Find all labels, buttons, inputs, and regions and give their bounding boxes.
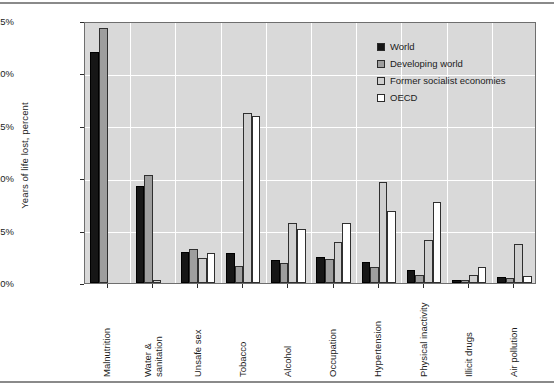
page-rule-top [0,2,554,4]
bar [461,280,470,283]
bar [235,266,244,283]
y-axis-tick-label: 15% [0,121,14,132]
x-axis-tick-label: Water & sanitation [143,285,164,377]
y-axis-tick-label: 10% [0,173,14,184]
legend-swatch-icon [377,77,385,85]
y-axis-title: Years of life lost, percent [19,46,30,266]
x-axis-tick-label: Occupation [328,285,339,377]
legend-swatch-icon [377,60,385,68]
bar [136,186,145,283]
bar [497,277,506,283]
bar [226,253,235,283]
bar [506,278,515,283]
bar [370,267,379,283]
x-axis-tick-label: Air pollution [509,285,520,377]
bar [243,113,252,283]
bar-group [130,23,175,283]
bar [424,240,433,283]
bar [90,52,99,283]
x-axis-tick-label: Illicit drugs [464,285,475,377]
legend-swatch-icon [377,94,385,102]
bar-group [311,23,356,283]
legend-item: Developing world [377,55,506,72]
bar [362,262,371,283]
y-axis-tick-mark [80,284,84,285]
y-axis-tick-label: 25% [0,16,14,27]
legend-item-label: Former socialist economies [390,75,506,86]
bar [523,276,532,283]
bar [144,175,153,283]
legend-item: Former socialist economies [377,72,506,89]
x-axis-tick-label: Tobacco [238,285,249,377]
page-rule-bottom [0,381,554,383]
bar [288,223,297,283]
legend-swatch-icon [377,43,385,51]
bar [297,229,306,283]
bar [334,242,343,283]
legend-item: World [377,38,506,55]
bar [342,223,351,283]
bar [99,28,108,283]
bar [181,252,190,283]
x-axis-tick-label: Malnutrition [102,285,113,377]
bar [271,260,280,283]
bar-group [85,23,130,283]
bar-group [221,23,266,283]
x-axis-tick-label: Unsafe sex [193,285,204,377]
y-axis-tick-label: 0% [0,278,14,289]
legend-item-label: Developing world [390,58,463,69]
y-axis-tick-label: 20% [0,68,14,79]
chart-legend: WorldDeveloping worldFormer socialist ec… [377,38,506,106]
legend-item: OECD [377,89,506,106]
bar [325,259,334,283]
bar [514,244,523,283]
bar-group [266,23,311,283]
bar [207,253,216,283]
bar [252,116,261,283]
x-axis-tick-label: Alcohol [283,285,294,377]
bar [478,267,487,283]
legend-item-label: OECD [390,92,417,103]
bar [198,258,207,283]
bar [469,275,478,283]
bar [379,182,388,283]
legend-item-label: World [390,41,415,52]
x-axis-tick-label: Hypertension [373,285,384,377]
bar [316,257,325,283]
bar [415,275,424,283]
x-axis-tick-label: Physical inactivity [419,285,430,377]
bar-group [175,23,220,283]
bar [153,280,162,283]
bar [433,202,442,283]
y-axis-tick-label: 5% [0,226,14,237]
bar [407,270,416,283]
bar [387,211,396,283]
chart-figure: Years of life lost, percent 0%5%10%15%20… [0,0,554,385]
bar [452,280,461,283]
bar [280,263,289,283]
bar [189,249,198,283]
